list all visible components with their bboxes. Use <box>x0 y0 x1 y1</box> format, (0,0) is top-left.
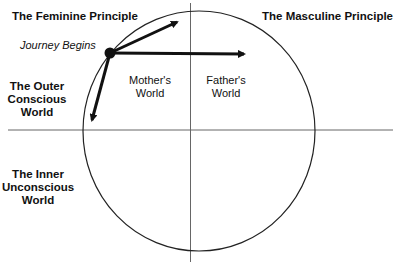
start-point-dot <box>105 48 116 59</box>
mothers-line-1: Mother's <box>120 74 180 87</box>
outer-line-2: Conscious <box>6 93 68 106</box>
arrow-down-left-icon <box>92 53 110 120</box>
fathers-world-label: Father's World <box>196 74 256 100</box>
outer-line-1: The Outer <box>6 80 68 93</box>
mothers-world-label: Mother's World <box>120 74 180 100</box>
feminine-principle-label: The Feminine Principle <box>12 10 138 23</box>
inner-line-3: World <box>2 194 74 207</box>
journey-begins-label: Journey Begins <box>20 39 96 52</box>
outer-conscious-world-label: The Outer Conscious World <box>6 80 68 119</box>
mothers-line-2: World <box>120 87 180 100</box>
arrow-up-right-icon <box>110 22 177 53</box>
masculine-principle-label: The Masculine Principle <box>262 10 393 23</box>
inner-line-2: Unconscious <box>2 181 74 194</box>
journey-diagram: The Feminine Principle The Masculine Pri… <box>0 0 397 265</box>
journey-circle <box>83 11 315 251</box>
fathers-line-1: Father's <box>196 74 256 87</box>
outer-line-3: World <box>6 106 68 119</box>
inner-unconscious-world-label: The Inner Unconscious World <box>2 168 74 207</box>
fathers-line-2: World <box>196 87 256 100</box>
arrow-right-icon <box>110 53 244 54</box>
inner-line-1: The Inner <box>2 168 74 181</box>
